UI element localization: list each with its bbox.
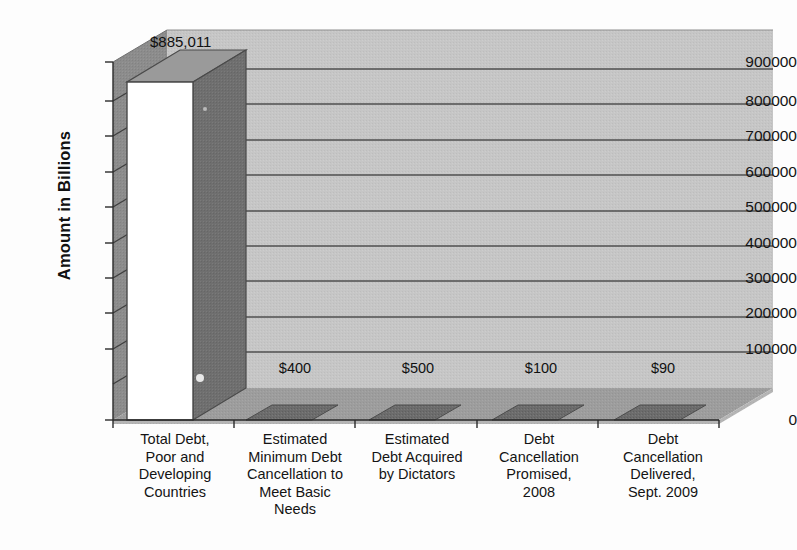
y-tick-label-600000: 600000 [705, 163, 797, 181]
data-label-debt-cancellation-promised-2008: $100 [501, 360, 581, 376]
x-category-line: Sept. 2009 [600, 484, 726, 502]
x-category-label-total-debt: Total Debt, Poor and Developing Countrie… [117, 431, 233, 501]
x-category-line: 2008 [478, 484, 600, 502]
x-category-line: Delivered, [600, 466, 726, 484]
y-tick-label-500000: 500000 [705, 198, 797, 216]
x-category-label-debt-cancellation-delivered-2009: Debt Cancellation Delivered, Sept. 2009 [600, 431, 726, 501]
x-category-line: Poor and [117, 449, 233, 467]
data-label-debt-cancellation-delivered-2009: $90 [623, 360, 703, 376]
x-category-line: Needs [231, 501, 359, 519]
x-category-line: Cancellation [600, 449, 726, 467]
y-tick-label-400000: 400000 [705, 234, 797, 252]
y-axis-title: Amount in Billions [55, 76, 74, 336]
back-wall [167, 30, 773, 388]
y-tick-label-200000: 200000 [705, 304, 797, 322]
data-label-estimated-debt-acquired-by-dictators: $500 [378, 360, 458, 376]
x-category-line: Developing [117, 466, 233, 484]
y-tick-label-800000: 800000 [705, 92, 797, 110]
y-axis-ticks [105, 62, 113, 420]
bar-total-debt-poor-and-developing-countries [127, 50, 246, 420]
x-category-line: Countries [117, 484, 233, 502]
y-tick-label-300000: 300000 [705, 269, 797, 287]
x-category-line: Estimated [355, 431, 479, 449]
chart-container: Amount in Billions 900000 800000 700000 … [0, 0, 797, 550]
data-label-total-debt: $885,011 [150, 33, 290, 50]
x-category-line: Debt [478, 431, 600, 449]
x-category-label-estimated-debt-acquired-by-dictators: Estimated Debt Acquired by Dictators [355, 431, 479, 484]
x-category-line: Estimated [231, 431, 359, 449]
x-category-line: Debt Acquired [355, 449, 479, 467]
y-tick-label-100000: 100000 [705, 340, 797, 358]
x-category-line: Debt [600, 431, 726, 449]
x-category-label-debt-cancellation-promised-2008: Debt Cancellation Promised, 2008 [478, 431, 600, 501]
y-tick-label-0: 0 [705, 411, 797, 429]
x-category-line: Cancellation [478, 449, 600, 467]
x-category-line: by Dictators [355, 466, 479, 484]
x-category-line: Cancellation to [231, 466, 359, 484]
x-category-label-estimated-minimum-debt-cancellation: Estimated Minimum Debt Cancellation to M… [231, 431, 359, 519]
x-category-line: Minimum Debt [231, 449, 359, 467]
y-tick-label-900000: 900000 [705, 53, 797, 71]
x-category-line: Meet Basic [231, 484, 359, 502]
data-label-estimated-minimum-debt-cancellation: $400 [255, 360, 335, 376]
y-tick-label-700000: 700000 [705, 127, 797, 145]
x-category-line: Total Debt, [117, 431, 233, 449]
x-category-line: Promised, [478, 466, 600, 484]
